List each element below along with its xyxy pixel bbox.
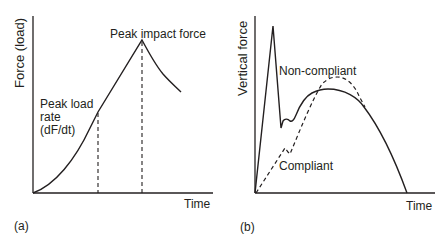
panel-a-peak-impact-label: Peak impact force [110,28,206,41]
panel-b-x-axis-label: Time [406,200,432,213]
panel-a-x-axis-label: Time [184,198,210,211]
panel-b-non-compliant-label: Non-compliant [279,65,356,78]
panel-a-caption: (a) [14,220,29,233]
panel-b-compliant-label: Compliant [279,160,333,173]
panel-a-y-axis-label: Force (load) [13,18,26,88]
panel-b-y-axis-label: Vertical force [236,21,249,96]
panel-b-caption: (b) [240,221,255,234]
panel-a-load-rate-label-3: (dF/dt) [40,124,75,137]
